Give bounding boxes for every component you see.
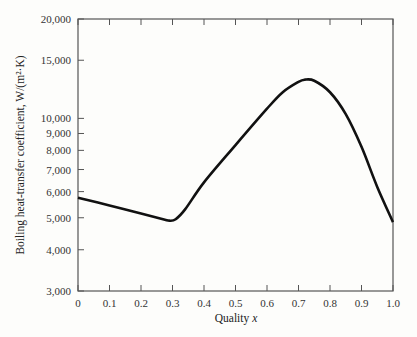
y-tick-label: 5,000 [46,212,71,224]
data-curve [78,79,393,222]
y-tick-label: 10,000 [41,112,72,124]
y-axis-label: Boiling heat-transfer coefficient, W/(m²… [14,55,27,254]
x-tick-label: 0.3 [166,297,180,309]
y-tick-label: 9,000 [46,127,71,139]
x-axis-ticks: 00.10.20.30.40.50.60.70.80.91.0 [75,19,400,309]
x-tick-label: 0.6 [260,297,274,309]
x-tick-label: 0.7 [292,297,306,309]
y-tick-label: 3,000 [46,285,71,297]
x-tick-label: 0.1 [103,297,117,309]
x-axis-label: Quality x [215,312,258,325]
x-tick-label: 0.8 [323,297,337,309]
x-tick-label: 0.2 [134,297,148,309]
y-tick-label: 6,000 [46,186,71,198]
y-tick-label: 8,000 [46,144,71,156]
y-tick-label: 15,000 [41,54,72,66]
x-tick-label: 0.5 [229,297,243,309]
y-tick-label: 7,000 [46,164,71,176]
x-tick-label: 0.4 [197,297,211,309]
x-tick-label: 1.0 [386,297,400,309]
y-tick-label: 4,000 [46,244,71,256]
x-tick-label: 0 [75,297,81,309]
chart: 3,0004,0005,0006,0007,0008,0009,00010,00… [0,0,417,337]
plot-frame [78,19,393,291]
y-tick-label: 20,000 [41,13,72,25]
x-tick-label: 0.9 [355,297,369,309]
